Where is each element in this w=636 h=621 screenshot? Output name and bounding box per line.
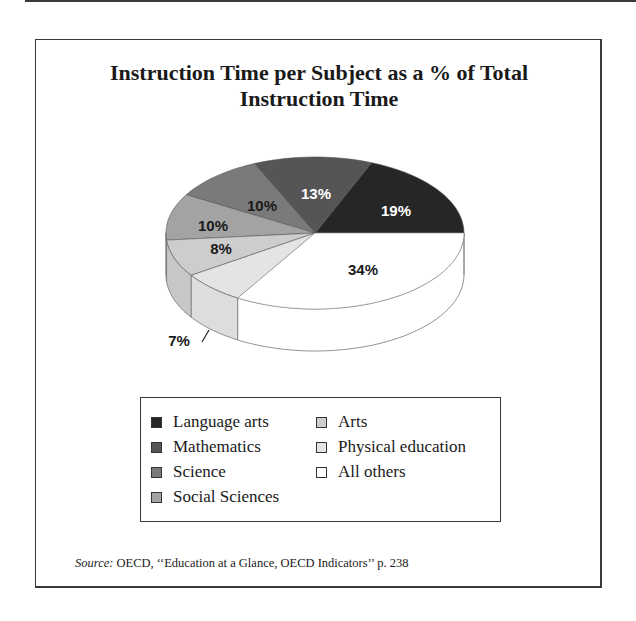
pie-label-science: 10% — [247, 197, 277, 214]
legend: Language arts Mathematics Science Social… — [140, 397, 501, 522]
pie-label-social-sciences: 10% — [198, 217, 228, 234]
legend-swatch — [151, 442, 162, 453]
legend-item-social-sciences: Social Sciences — [151, 487, 279, 507]
pie-label-mathematics: 13% — [301, 185, 331, 202]
pie-label-all-others: 34% — [348, 261, 378, 278]
legend-swatch — [151, 467, 162, 478]
legend-item-arts: Arts — [316, 412, 367, 432]
legend-swatch — [316, 417, 327, 428]
legend-label: Language arts — [173, 412, 269, 432]
legend-item-all-others: All others — [316, 462, 406, 482]
legend-label: All others — [338, 462, 406, 482]
legend-label: Arts — [338, 412, 367, 432]
pie-label-physical-education: 7% — [168, 332, 190, 349]
pie-chart: 19%13%10%10%8%7%34% — [0, 0, 636, 621]
legend-swatch — [151, 417, 162, 428]
legend-swatch — [151, 492, 162, 503]
legend-item-mathematics: Mathematics — [151, 437, 261, 457]
legend-item-science: Science — [151, 462, 226, 482]
label-leader-line — [202, 330, 209, 342]
legend-swatch — [316, 442, 327, 453]
legend-label: Social Sciences — [173, 487, 279, 507]
legend-label: Physical education — [338, 437, 466, 457]
legend-item-language-arts: Language arts — [151, 412, 269, 432]
legend-swatch — [316, 467, 327, 478]
legend-label: Mathematics — [173, 437, 261, 457]
legend-label: Science — [173, 462, 226, 482]
pie-label-language-arts: 19% — [381, 202, 411, 219]
pie-label-arts: 8% — [210, 240, 232, 257]
source-text: OECD, ‘‘Education at a Glance, OECD Indi… — [113, 556, 408, 570]
source-prefix: Source: — [75, 556, 113, 570]
legend-item-physical-education: Physical education — [316, 437, 466, 457]
source-note: Source: OECD, ‘‘Education at a Glance, O… — [75, 556, 408, 571]
